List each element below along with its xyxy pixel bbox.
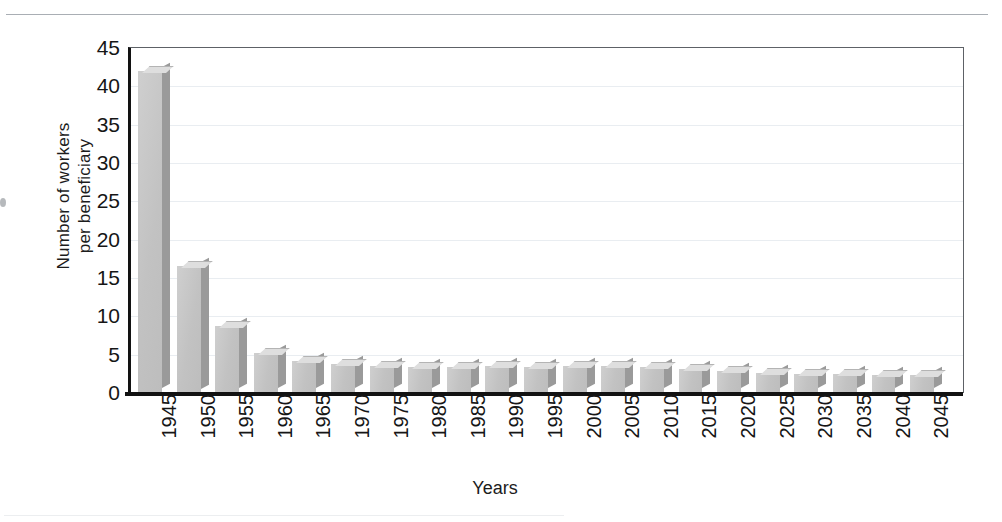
page-header-rule: [6, 14, 988, 15]
bar-front-face: [794, 374, 818, 392]
x-axis-tick-label: 1970: [352, 394, 372, 464]
bar-1980: [408, 367, 432, 392]
bar-front-face: [756, 373, 780, 392]
bar-1945: [138, 71, 162, 392]
x-axis-tick-label: 1990: [506, 394, 526, 464]
x-axis-tick-label: 1980: [429, 394, 449, 464]
bar-2020: [717, 371, 741, 392]
bar-2040: [872, 375, 896, 392]
bar-2030: [794, 374, 818, 392]
y-axis-tick-label: 10: [40, 305, 120, 326]
x-axis-tick-label: 1950: [198, 394, 218, 464]
x-axis-title: Years: [430, 478, 560, 498]
page-edge-artifact: [0, 198, 6, 207]
bar-front-face: [717, 371, 741, 392]
x-axis-tick-labels: 1945195019551960196519701975198019851990…: [128, 396, 960, 468]
bar-side-face: [239, 318, 247, 388]
bar-1965: [292, 361, 316, 392]
y-axis-tick-label: 30: [40, 152, 120, 173]
bar-front-face: [679, 369, 703, 392]
bar-front-face: [331, 364, 355, 392]
bar-2010: [640, 367, 664, 392]
bar-series: [128, 47, 960, 392]
x-axis-tick-label: 2025: [777, 394, 797, 464]
y-axis-tick-labels: 051015202530354045: [40, 34, 120, 406]
bar-2015: [679, 369, 703, 392]
y-axis-tick-label: 45: [40, 37, 120, 58]
bar-front-face: [254, 353, 278, 392]
bar-front-face: [872, 375, 896, 392]
bar-front-face: [370, 366, 394, 392]
x-axis-tick-label: 1955: [236, 394, 256, 464]
bar-front-face: [138, 71, 162, 392]
bar-2045: [910, 375, 934, 392]
bar-2000: [563, 366, 587, 392]
x-axis-tick-label: 2015: [699, 394, 719, 464]
x-axis-tick-label: 1945: [159, 394, 179, 464]
bar-1960: [254, 353, 278, 392]
bar-2005: [601, 366, 625, 392]
bar-2035: [833, 374, 857, 392]
bar-side-face: [201, 257, 209, 388]
bar-1970: [331, 364, 355, 392]
bar-1975: [370, 366, 394, 392]
bar-2025: [756, 373, 780, 392]
bar-1995: [524, 367, 548, 392]
y-axis-tick-label: 40: [40, 75, 120, 96]
y-axis-tick-label: 20: [40, 229, 120, 250]
figure-bar-chart: Number of workers per beneficiary 051015…: [0, 0, 1002, 522]
bar-front-face: [563, 366, 587, 392]
x-axis-tick-label: 2000: [584, 394, 604, 464]
x-axis-tick-label: 1975: [391, 394, 411, 464]
bar-front-face: [910, 375, 934, 392]
bar-1990: [485, 366, 509, 392]
bar-front-face: [485, 366, 509, 392]
x-axis-tick-label: 1985: [468, 394, 488, 464]
bar-1955: [215, 326, 239, 392]
x-axis-tick-label: 2030: [815, 394, 835, 464]
bar-front-face: [601, 366, 625, 392]
x-axis-tick-label: 2045: [931, 394, 951, 464]
y-axis-tick-label: 35: [40, 114, 120, 135]
y-axis-tick-label: 5: [40, 344, 120, 365]
bar-front-face: [447, 367, 471, 392]
bar-1950: [177, 266, 201, 393]
x-axis-tick-label: 2010: [661, 394, 681, 464]
x-axis-tick-label: 2020: [738, 394, 758, 464]
y-axis-tick-label: 15: [40, 267, 120, 288]
x-axis-tick-label: 2005: [622, 394, 642, 464]
x-axis-tick-label: 1995: [545, 394, 565, 464]
page-footer-rule: [4, 515, 564, 516]
bar-1985: [447, 367, 471, 392]
x-axis-tick-label: 1965: [313, 394, 333, 464]
y-axis-tick-label: 0: [40, 382, 120, 403]
y-axis-tick-label: 25: [40, 190, 120, 211]
bar-front-face: [640, 367, 664, 392]
bar-front-face: [524, 367, 548, 392]
bar-front-face: [215, 326, 239, 392]
bar-front-face: [408, 367, 432, 392]
bar-side-face: [162, 63, 170, 388]
bar-front-face: [833, 374, 857, 392]
bar-front-face: [177, 266, 201, 393]
x-axis-tick-label: 2035: [854, 394, 874, 464]
x-axis-tick-label: 2040: [893, 394, 913, 464]
x-axis-tick-label: 1960: [275, 394, 295, 464]
bar-front-face: [292, 361, 316, 392]
